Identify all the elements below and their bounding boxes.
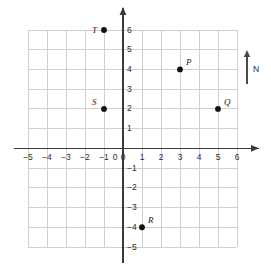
x-axis-tick-label: 2 [152, 153, 170, 162]
x-axis-tick-label: −4 [38, 153, 56, 162]
y-axis-tick-label: −1 [127, 164, 143, 173]
y-axis-tick-label: 4 [127, 65, 143, 74]
north-arrow-head [244, 50, 250, 57]
x-axis-tick-label: 6 [228, 153, 246, 162]
point-label-s: S [92, 98, 97, 107]
x-axis-tick-label: −5 [19, 153, 37, 162]
x-axis-tick-label: 1 [133, 153, 151, 162]
y-axis-tick-label: 3 [127, 85, 143, 94]
grid-lines [28, 30, 237, 247]
x-axis-tick-label: 3 [171, 153, 189, 162]
point-label-r: R [148, 216, 154, 225]
point-label-q: Q [224, 98, 231, 107]
origin-label: 0 [110, 153, 120, 162]
y-axis-tick-label: −3 [127, 203, 143, 212]
y-axis-tick-label: 6 [127, 26, 143, 35]
data-point-p [177, 67, 183, 73]
coordinate-plane-figure: −5−4−3−2−10123456654321−1−2−3−4−50PQRSTN [0, 0, 271, 269]
y-axis-tick-label: 2 [127, 104, 143, 113]
x-axis-arrowhead [251, 145, 259, 152]
x-axis-tick-label: −2 [76, 153, 94, 162]
data-point-q [215, 106, 221, 112]
y-axis-tick-label: −2 [127, 183, 143, 192]
y-axis-tick-label: −4 [127, 223, 143, 232]
y-axis-arrowhead [120, 7, 127, 15]
y-axis-tick-label: 5 [127, 45, 143, 54]
x-axis-tick-label: 4 [190, 153, 208, 162]
north-label: N [253, 65, 259, 74]
y-axis-tick-label: 1 [127, 124, 143, 133]
x-axis-tick-label: 5 [209, 153, 227, 162]
north-arrow-icon [244, 50, 250, 84]
x-axis-tick-label: −3 [57, 153, 75, 162]
point-label-p: P [186, 58, 192, 67]
point-label-t: T [92, 26, 97, 35]
y-axis-tick-label: −5 [127, 243, 143, 252]
data-point-t [101, 27, 107, 33]
data-point-s [101, 106, 107, 112]
